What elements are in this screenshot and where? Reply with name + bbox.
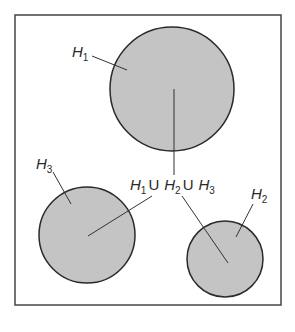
set-h3-circle [39, 187, 135, 283]
union-diagram: H1 H3 H2 H1UH2UH3 [0, 0, 295, 332]
set-h1-circle [110, 27, 234, 151]
